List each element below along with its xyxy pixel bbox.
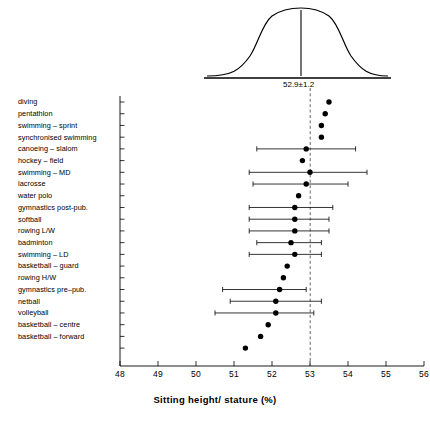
category-label: swimming – sprint — [18, 122, 77, 129]
category-label: badminton — [18, 239, 53, 246]
category-label: rowing H/W — [18, 274, 56, 281]
category-label: diving — [18, 98, 37, 105]
data-point — [304, 181, 309, 186]
data-point — [292, 217, 297, 222]
category-label: volleyball — [18, 309, 49, 316]
data-point — [292, 252, 297, 257]
x-tick-label: 53 — [295, 369, 325, 379]
x-axis-title: Sitting height/ stature (%) — [0, 394, 430, 405]
x-tick-label: 56 — [409, 369, 430, 379]
data-point — [243, 345, 248, 350]
data-point — [277, 287, 282, 292]
category-label: gymnastics pre–pub. — [18, 286, 86, 293]
data-point — [307, 170, 312, 175]
data-point — [319, 134, 324, 139]
distribution-annotation: 52.9±1.2 — [283, 80, 314, 89]
data-point — [292, 228, 297, 233]
category-label: basketball – guard — [18, 262, 79, 269]
x-tick-label: 55 — [371, 369, 401, 379]
category-label: water polo — [18, 192, 52, 199]
category-label: basketball – centre — [18, 321, 80, 328]
data-series — [215, 99, 367, 351]
category-label: swimming – MD — [18, 169, 71, 176]
category-label: swimming – LD — [18, 251, 69, 258]
category-label: synchronised swimming — [18, 134, 97, 141]
data-point — [281, 275, 286, 280]
category-label: gymnastics post-pub. — [18, 204, 88, 211]
x-tick-label: 49 — [143, 369, 173, 379]
category-label: canoeing – slalom — [18, 145, 78, 152]
category-label: netball — [18, 298, 40, 305]
x-tick-label: 52 — [257, 369, 287, 379]
category-label: lacrosse — [18, 180, 46, 187]
data-point — [258, 334, 263, 339]
data-point — [285, 263, 290, 268]
sitting-height-figure — [0, 0, 430, 428]
x-tick-label: 51 — [219, 369, 249, 379]
category-label: rowing L/W — [18, 227, 55, 234]
x-tick-label: 54 — [333, 369, 363, 379]
data-point — [323, 111, 328, 116]
data-point — [292, 205, 297, 210]
data-point — [296, 193, 301, 198]
data-point — [300, 158, 305, 163]
data-point — [326, 99, 331, 104]
x-tick-label: 48 — [105, 369, 135, 379]
category-label: hockey – field — [18, 157, 63, 164]
category-label: basketball – forward — [18, 333, 84, 340]
x-tick-label: 50 — [181, 369, 211, 379]
data-point — [273, 310, 278, 315]
category-label: pentathlon — [18, 110, 53, 117]
normal-distribution-curve — [204, 8, 391, 78]
data-point — [266, 322, 271, 327]
data-point — [273, 299, 278, 304]
data-point — [288, 240, 293, 245]
category-label: softball — [18, 216, 42, 223]
data-point — [319, 123, 324, 128]
data-point — [304, 146, 309, 151]
